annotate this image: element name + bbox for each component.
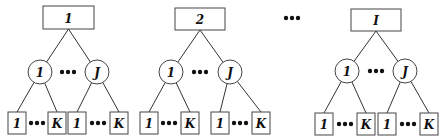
ellipsis-icon [161,121,177,125]
edge-middle-to-leaf [77,83,92,112]
leaf-node: 1 [8,112,26,134]
middle-node: 1 [335,59,359,83]
ellipsis-icon [232,121,248,125]
tree-2: 21J1K1K [140,8,270,134]
leaf-node-label: 1 [383,118,391,132]
root-node: 1 [43,6,94,29]
edge-middle-to-leaf [352,82,366,113]
edge-middle-to-leaf [45,83,57,112]
leaf-group: 1K [315,113,375,135]
ellipsis-icon [400,122,416,126]
middle-node: 1 [28,60,52,84]
ellipsis-icon [29,121,45,125]
leaf-node-label: K [360,118,372,132]
leaf-node: 1 [140,112,158,134]
middle-node-label: 1 [343,65,351,79]
leaf-node: K [181,112,199,134]
ellipsis-icon [60,70,76,74]
leaf-node-label: K [113,117,125,131]
leaf-node-label: 1 [216,117,224,131]
edge-root-to-middle [178,30,200,62]
edge-root-to-middle [47,29,69,62]
leaf-node-label: 1 [145,117,153,131]
leaf-node-label: 1 [320,118,328,132]
middle-node-label: 1 [36,66,44,80]
edge-middle-to-leaf [149,83,165,112]
leaf-node: 1 [68,112,86,134]
leaf-node: 1 [211,112,229,134]
ellipsis-icon [192,70,208,74]
middle-node-label: J [225,66,234,80]
edge-middle-to-leaf [103,83,119,112]
edge-root-to-middle [354,31,376,61]
leaf-node-label: K [184,117,196,131]
leaf-node-label: K [51,117,63,131]
edge-middle-to-leaf [411,81,429,113]
middle-node-label: 1 [167,66,175,80]
ellipsis-separator-icon [284,16,300,20]
middle-node: J [85,60,109,84]
leaf-node-label: 1 [13,117,21,131]
leaf-node-label: K [423,118,435,132]
leaf-group: 1K [68,112,128,134]
edge-root-to-middle [376,31,398,61]
tree-1: 11J1K1K [8,6,128,134]
leaf-node: 1 [315,113,333,135]
middle-node: J [218,60,242,84]
middle-node-label: J [92,66,101,80]
leaf-group: 1K [378,113,438,135]
middle-node: J [393,59,417,83]
root-node: 2 [175,8,225,30]
leaf-node-label: K [255,117,267,131]
leaf-node: 1 [378,113,396,135]
ellipsis-icon [368,69,384,73]
root-node-label: I [372,14,379,28]
leaf-node: K [48,112,66,134]
edge-middle-to-leaf [237,81,261,112]
edge-root-to-middle [200,30,223,62]
tree-hierarchy-diagram: 11J1K1K21J1K1KI1J1K1K [0,0,446,140]
root-node-label: 1 [64,12,72,26]
leaf-group: 1K [211,112,270,134]
tree-3: I1J1K1K [315,9,438,135]
diagram-canvas: 11J1K1K21J1K1KI1J1K1K [0,0,446,140]
leaf-node: K [110,112,128,134]
edge-middle-to-leaf [387,82,400,113]
edge-root-to-middle [69,29,91,62]
leaf-group: 1K [140,112,199,134]
edge-middle-to-leaf [220,84,227,112]
edge-middle-to-leaf [176,83,190,112]
ellipsis-icon [90,121,106,125]
middle-node: 1 [159,60,183,84]
root-node: I [351,9,401,31]
leaf-node: K [252,112,270,134]
leaf-node: K [420,113,438,135]
leaf-node: K [357,113,375,135]
leaf-group: 1K [8,112,66,134]
edge-middle-to-leaf [17,82,34,112]
leaf-node-label: 1 [73,117,81,131]
ellipsis-icon [337,122,353,126]
edge-middle-to-leaf [324,82,341,113]
root-node-label: 2 [195,13,204,27]
middle-node-label: J [400,65,409,79]
